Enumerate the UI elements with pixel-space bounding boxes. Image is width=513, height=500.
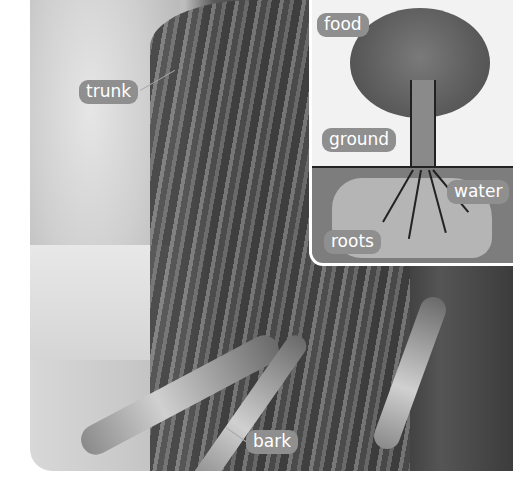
- roots-label: roots: [324, 230, 381, 254]
- ground-label: ground: [322, 128, 396, 152]
- diagram-trunk: [410, 80, 436, 180]
- tree-diagram-inset: food ground water roots: [309, 0, 513, 266]
- water-label: water: [447, 180, 509, 204]
- bark-label: bark: [246, 430, 298, 454]
- background-park: [30, 245, 170, 360]
- food-label: food: [317, 13, 369, 37]
- trunk-label: trunk: [79, 80, 138, 104]
